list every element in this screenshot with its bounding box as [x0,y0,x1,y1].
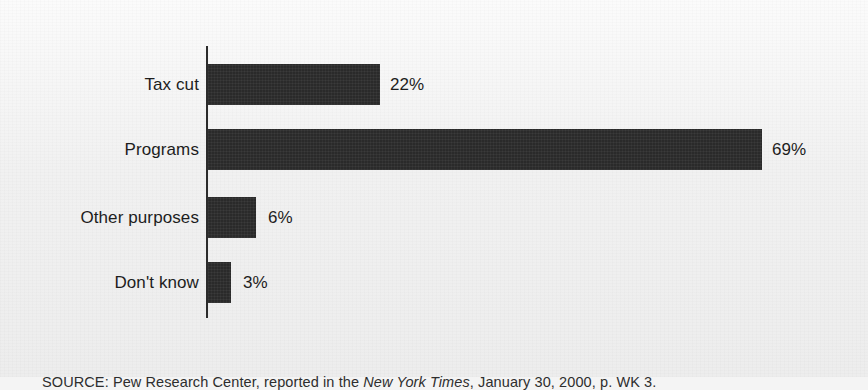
source-suffix: , January 30, 2000, p. WK 3. [470,374,657,390]
source-publication: New York Times [363,374,470,390]
bar-row: Tax cut 22% [40,64,868,105]
bar-value-label: 22% [390,75,424,95]
bar-value-label: 3% [243,273,268,293]
bar-category-label: Don't know [114,273,199,293]
source-note: SOURCE: Pew Research Center, reported in… [42,374,656,390]
source-prefix: SOURCE: Pew Research Center, reported in… [42,374,363,390]
plot-area: Tax cut 22% Programs 69% Other purposes … [40,16,868,356]
bar-category-label: Tax cut [144,75,199,95]
bar-row: Other purposes 6% [40,197,868,238]
bar-rect [208,197,256,238]
bar-rect [208,262,231,303]
bar-value-label: 69% [772,140,806,160]
bar-rect [208,64,380,105]
horizontal-bar-chart: Tax cut 22% Programs 69% Other purposes … [40,16,828,361]
bar-rect [208,129,762,170]
bar-row: Don't know 3% [40,262,868,303]
bar-value-label: 6% [268,208,293,228]
bar-category-label: Other purposes [80,208,199,228]
bar-row: Programs 69% [40,129,868,170]
bar-category-label: Programs [125,140,200,160]
